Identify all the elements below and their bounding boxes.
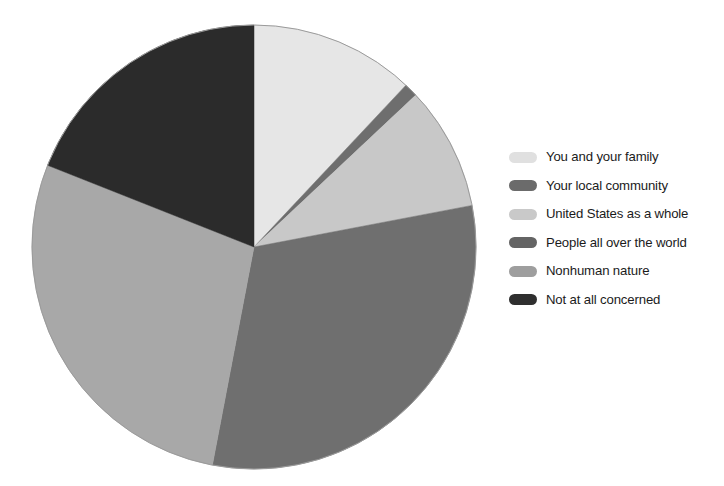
legend-item-label: You and your family xyxy=(546,150,659,164)
legend-item-label: People all over the world xyxy=(546,236,687,250)
legend-item[interactable]: You and your family xyxy=(509,143,719,172)
legend-swatch-icon xyxy=(509,209,537,220)
pie-svg xyxy=(0,0,500,486)
legend-swatch-icon xyxy=(509,237,537,248)
legend-item[interactable]: Nonhuman nature xyxy=(509,257,719,286)
chart-legend: You and your family Your local community… xyxy=(509,143,719,314)
pie-plot-area xyxy=(0,0,500,486)
legend-item-label: Your local community xyxy=(546,179,668,193)
legend-item-label: Nonhuman nature xyxy=(546,264,649,278)
legend-item[interactable]: United States as a whole xyxy=(509,200,719,229)
legend-swatch-icon xyxy=(509,294,537,305)
pie-chart-figure: You and your family Your local community… xyxy=(0,0,724,486)
legend-item-label: United States as a whole xyxy=(546,207,688,221)
legend-item-label: Not at all concerned xyxy=(546,293,660,307)
legend-swatch-icon xyxy=(509,266,537,277)
legend-swatch-icon xyxy=(509,152,537,163)
legend-item[interactable]: Not at all concerned xyxy=(509,286,719,315)
legend-swatch-icon xyxy=(509,180,537,191)
legend-item[interactable]: People all over the world xyxy=(509,229,719,258)
pie-slice-group xyxy=(32,25,476,469)
legend-item[interactable]: Your local community xyxy=(509,172,719,201)
